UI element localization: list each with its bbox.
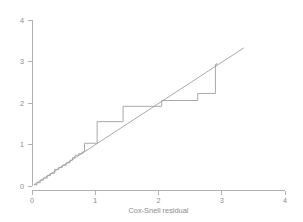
x-axis-title: Cox-Snell residual	[129, 206, 189, 215]
y-tick-label-3: 3	[20, 57, 24, 66]
chart-figure: 0 1 2 3 4 0 1 2 3 4 Cox-	[0, 0, 303, 222]
y-tick-label-2: 2	[20, 99, 24, 108]
y-tick-label-0: 0	[20, 182, 24, 191]
y-tick-label-4: 4	[20, 16, 24, 25]
x-tick-label-1: 1	[93, 196, 97, 205]
y-tick-label-1: 1	[20, 140, 24, 149]
x-tick-label-4: 4	[283, 196, 287, 205]
x-tick-label-0: 0	[30, 196, 34, 205]
x-tick-label-3: 3	[220, 196, 224, 205]
plot-background	[0, 0, 303, 222]
x-tick-label-2: 2	[157, 196, 161, 205]
cox-snell-residual-plot: 0 1 2 3 4 0 1 2 3 4 Cox-	[0, 0, 303, 222]
